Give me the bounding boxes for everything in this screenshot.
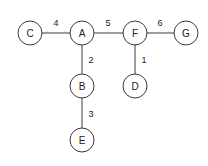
nodes-layer: ABCDEFG <box>18 21 198 152</box>
node-label: C <box>26 28 33 39</box>
edge-weight-label: 5 <box>105 18 110 28</box>
node-g: G <box>174 21 198 45</box>
edge-weight-label: 6 <box>157 18 162 28</box>
node-c: C <box>18 21 42 45</box>
node-d: D <box>123 74 147 98</box>
edge-weight-label: 2 <box>88 55 93 65</box>
node-label: A <box>79 28 86 39</box>
node-label: B <box>79 81 86 92</box>
node-label: F <box>132 28 138 39</box>
node-label: E <box>79 135 86 146</box>
edge-weight-label: 1 <box>141 55 146 65</box>
edges-layer <box>30 33 186 140</box>
node-a: A <box>70 21 94 45</box>
edge-weight-label: 3 <box>88 109 93 119</box>
graph-svg: 456213 ABCDEFG <box>0 0 208 166</box>
node-b: B <box>70 74 94 98</box>
node-label: D <box>131 81 138 92</box>
node-e: E <box>70 128 94 152</box>
node-f: F <box>123 21 147 45</box>
graph-diagram: 456213 ABCDEFG <box>0 0 208 166</box>
node-label: G <box>182 28 190 39</box>
edge-weight-label: 4 <box>53 18 58 28</box>
